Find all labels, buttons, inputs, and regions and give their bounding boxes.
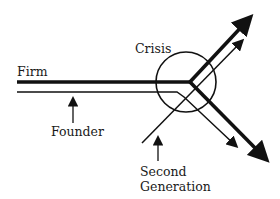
- crisis-label: Crisis: [135, 41, 171, 56]
- second-generation-label-line2: Generation: [140, 179, 211, 194]
- founder-line: [17, 92, 235, 145]
- firm-succession-diagram: Firm Crisis Founder Second Generation: [0, 0, 280, 199]
- firm-arrow-up: [189, 22, 246, 83]
- firm-label: Firm: [17, 64, 48, 79]
- firm-arrow-down: [189, 81, 262, 155]
- second-generation-label-line1: Second: [140, 164, 187, 179]
- founder-label: Founder: [51, 124, 104, 139]
